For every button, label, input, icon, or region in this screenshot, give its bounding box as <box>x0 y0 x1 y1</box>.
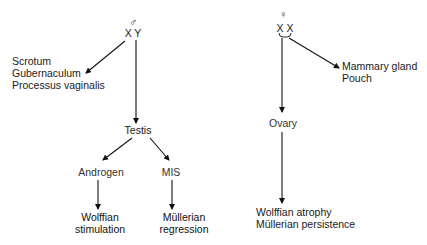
male-gonad-testis: Testis <box>125 125 152 136</box>
effect-mullerian-line2: regression <box>159 224 208 235</box>
effect-mullerian-persistence: Müllerian persistence <box>256 219 355 230</box>
female-target-pouch: Pouch <box>342 73 372 84</box>
arrow-testis-to-androgen <box>103 138 132 160</box>
female-symbol-icon: ♀ <box>279 9 287 20</box>
arrow-testis-to-mis <box>150 138 169 160</box>
male-target-processus-vaginalis: Processus vaginalis <box>12 80 105 91</box>
effect-wolffian-line1: Wolffian <box>81 212 119 223</box>
arrow-layer <box>0 0 427 245</box>
arrow-xx-to-mammary <box>289 38 339 68</box>
hormone-androgen: Androgen <box>78 167 124 178</box>
male-genotype: X Y <box>125 28 142 39</box>
male-target-scrotum: Scrotum <box>12 56 51 67</box>
sex-differentiation-diagram: ♂ X Y Scrotum Gubernaculum Processus vag… <box>0 0 427 245</box>
effect-wolffian-atrophy: Wolffian atrophy <box>256 207 332 218</box>
effect-mullerian-line1: Müllerian <box>163 212 206 223</box>
female-gonad-ovary: Ovary <box>269 118 297 129</box>
hormone-mis: MIS <box>162 167 181 178</box>
female-target-mammary-gland: Mammary gland <box>342 61 417 72</box>
male-target-gubernaculum: Gubernaculum <box>12 68 81 79</box>
effect-wolffian-line2: stimulation <box>75 224 125 235</box>
female-genotype: X X <box>277 23 294 34</box>
arrow-xy-to-scrotum <box>86 41 125 73</box>
